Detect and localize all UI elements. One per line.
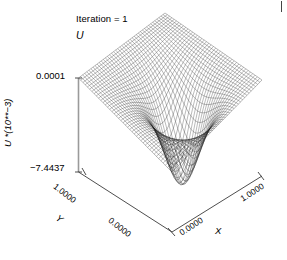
z-tick-max: 0.0001 — [36, 71, 65, 81]
z-tick-min: −7.4437 — [30, 163, 65, 173]
axis-lines — [0, 0, 287, 260]
corner-tick-mark — [281, 1, 282, 12]
plot-title: Iteration = 1 — [76, 14, 128, 24]
x-axis-title: X — [215, 226, 221, 236]
plot-canvas: Iteration = 1 U 0.0001 −7.4437 U *(10**−… — [0, 0, 287, 260]
z-axis-title: U *(10**−3) — [3, 99, 13, 147]
surface-label: U — [76, 30, 84, 41]
